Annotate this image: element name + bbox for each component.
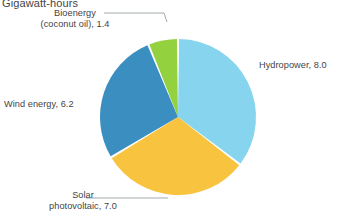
slice-label-wind-energy: Wind energy, 6.2	[4, 99, 74, 110]
pie-chart-graphic	[0, 0, 345, 221]
slice-label-solar-line1: Solar	[72, 190, 94, 200]
slice-label-solar-line2: photovoltaic, 7.0	[23, 201, 143, 212]
pie-slice-group	[100, 39, 256, 195]
slice-label-bioenergy-line2: (coconut oil), 1.4	[21, 19, 129, 30]
slice-label-solar-photovoltaic: Solar photovoltaic, 7.0	[23, 190, 143, 213]
slice-label-bioenergy-line1: Bioenergy	[54, 8, 96, 18]
slice-label-bioenergy: Bioenergy (coconut oil), 1.4	[21, 8, 129, 31]
pie-chart: Gigawatt-hours Bioenergy (coconut oil), …	[0, 0, 345, 221]
slice-label-hydropower: Hydropower, 8.0	[259, 60, 327, 71]
